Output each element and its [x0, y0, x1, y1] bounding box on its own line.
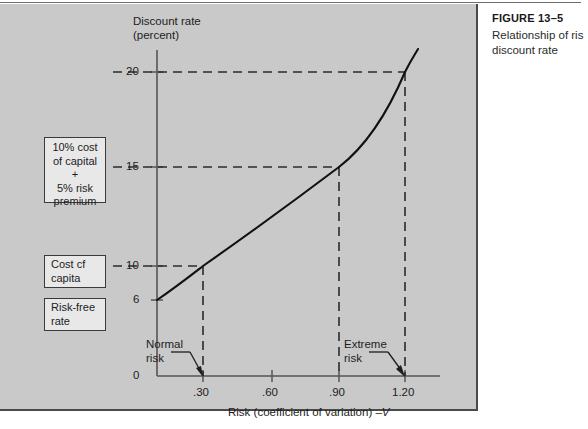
callout-risk-premium-line4: 5% risk: [49, 182, 101, 196]
annotation-normal-risk: Normal risk: [146, 338, 183, 365]
callout-risk-premium-line3: +: [49, 168, 101, 182]
x-axis-title-variable: V: [382, 406, 390, 418]
y-tick-label-0: 0: [133, 369, 139, 381]
figure-caption-line1: Relationship of ris: [492, 28, 588, 43]
callout-risk-premium-line2: of capital: [49, 155, 101, 169]
y-tick-label-15: 15: [126, 160, 139, 172]
y-tick-label-6: 6: [133, 293, 139, 305]
figure-panel: Discount rate (percent) 20 15 10 6 0 .30…: [0, 4, 478, 411]
callout-risk-free-rate-line1: Risk-free: [51, 301, 101, 315]
callout-risk-free-rate-line2: rate: [51, 315, 101, 329]
risk-discount-curve: [157, 49, 418, 300]
callout-cost-of-capital-line2: capita: [51, 272, 101, 286]
callout-risk-premium-line1: 10% cost: [49, 141, 101, 155]
x-tick-label-060: .60: [262, 386, 278, 398]
annotation-extreme-risk: Extreme risk: [344, 338, 387, 365]
x-tick-label-120: 1.20: [392, 386, 414, 398]
annotation-normal-risk-line2: risk: [146, 352, 183, 366]
callout-cost-of-capital: Cost cf capita: [44, 255, 106, 288]
callout-risk-premium-line5: premium: [49, 195, 101, 209]
y-axis-title-line2: (percent): [133, 28, 201, 42]
y-axis-title: Discount rate (percent): [133, 14, 201, 42]
figure-caption-line2: discount rate: [492, 43, 588, 58]
y-axis-title-line1: Discount rate: [133, 14, 201, 28]
annotation-extreme-risk-line1: Extreme: [344, 338, 387, 352]
callout-cost-of-capital-line1: Cost cf: [51, 258, 101, 272]
figure-caption: FIGURE 13–5 Relationship of ris discount…: [492, 12, 588, 58]
annotation-normal-risk-line1: Normal: [146, 338, 183, 352]
figure-number: FIGURE 13–5: [492, 12, 588, 25]
callout-risk-free-rate: Risk-free rate: [44, 298, 106, 331]
annotation-extreme-risk-line2: risk: [344, 352, 387, 366]
callout-risk-premium: 10% cost of capital + 5% risk premium: [44, 137, 106, 203]
page-top-rule: [0, 2, 581, 3]
x-tick-label-030: .30: [193, 386, 209, 398]
y-tick-label-10: 10: [126, 259, 139, 271]
x-axis-title-text: Risk (coefficient of variation) –: [228, 406, 382, 418]
y-tick-label-20: 20: [126, 65, 139, 77]
x-tick-label-090: .90: [329, 386, 345, 398]
x-axis-title: Risk (coefficient of variation) –V: [228, 406, 390, 418]
